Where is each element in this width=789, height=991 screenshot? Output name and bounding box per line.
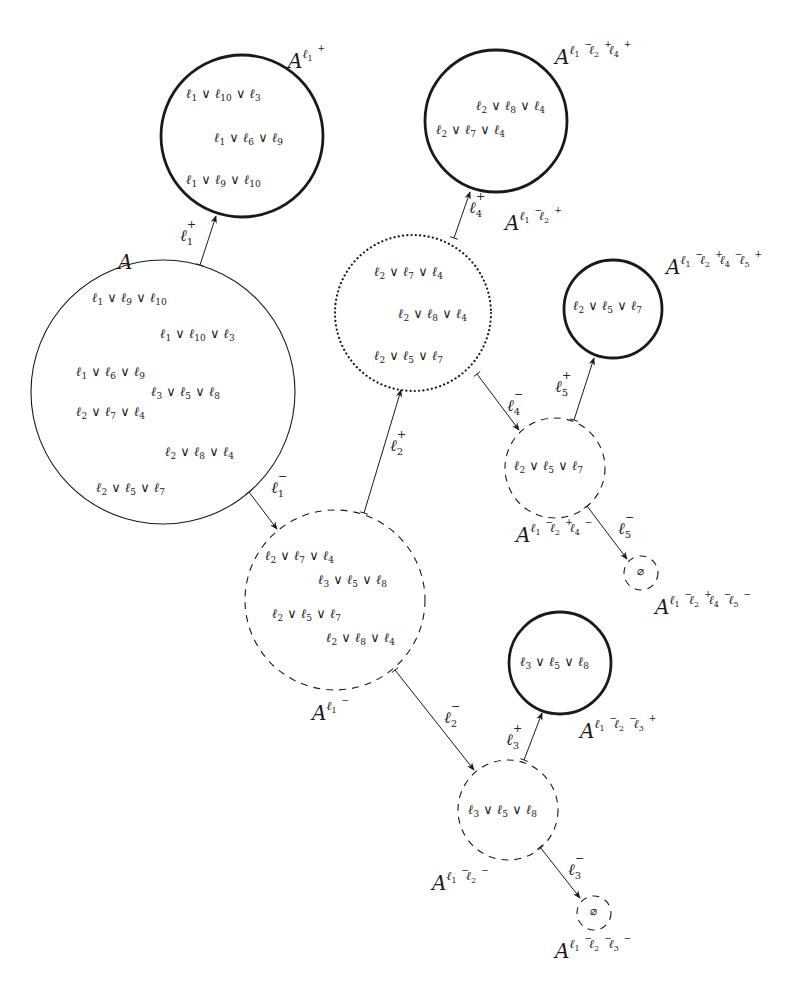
edge-label: ℓ1− [271,480,284,499]
node-label-superscript: ℓ1−ℓ2−ℓ3+ [594,717,653,731]
clause: ℓ1 ∨ ℓ10 ∨ ℓ3 [186,87,261,103]
node-label-base: A [288,49,302,73]
node-label-A_l1m_l2p: Aℓ1−ℓ2+ [505,210,559,233]
clause: ℓ2 ∨ ℓ8 ∨ ℓ4 [326,631,395,647]
edge-arrow-A_l1m-to-A_l1m_l2m [395,670,474,770]
node-label-base: A [118,250,132,274]
clause: ℓ2 ∨ ℓ7 ∨ ℓ4 [436,123,505,139]
literal-assignment: ℓ1+ [302,48,320,63]
node-label-superscript: ℓ1−ℓ2+ [519,209,558,223]
clause: ℓ1 ∨ ℓ9 ∨ ℓ10 [186,173,261,189]
edge-arrow-A_l1m_l2p-to-A_l1m_l2p_l4p [454,192,470,238]
literal-assignment: ℓ2− [466,870,484,885]
clause: ℓ1 ∨ ℓ10 ∨ ℓ3 [160,327,235,343]
node-label-superscript: ℓ1−ℓ2− [446,869,485,883]
edge-label: ℓ5− [618,521,631,540]
node-circle-A_l1m [245,510,425,690]
literal-assignment: ℓ2+ [539,210,557,225]
node-label-base: A [432,871,446,895]
node-label-superscript: ℓ1+ [302,47,322,61]
node-label-superscript: ℓ1−ℓ2+ℓ4+ [569,43,628,57]
node-label-A_l1m_l2p_l4m: Aℓ1−ℓ2+ℓ4− [516,522,589,545]
clause: ℓ2 ∨ ℓ7 ∨ ℓ4 [76,405,145,421]
edge-label: ℓ4+ [469,200,482,219]
node-label-A_l1m_l2m_l3m: Aℓ1−ℓ2−ℓ3− [555,938,628,961]
node-label-base: A [555,45,569,69]
edges-layer [196,192,627,898]
node-label-base: A [580,719,594,743]
empty-set-symbol: ∅ [590,906,597,918]
clause: ℓ2 ∨ ℓ8 ∨ ℓ4 [398,307,467,323]
literal-assignment: ℓ1− [530,522,548,537]
literal-assignment: ℓ4− [720,254,738,269]
edge-label: ℓ2+ [390,438,403,457]
edge-label: ℓ3+ [506,732,519,751]
node-label-A_l1m_l2p_l4m_l5m: Aℓ1−ℓ2+ℓ4−ℓ5− [655,594,748,617]
literal-assignment: ℓ4− [709,594,727,609]
literal-assignment: ℓ5− [728,594,746,609]
node-label-A: A [118,252,132,272]
edge-arrow-A-to-A_l1p [200,216,216,265]
literal-assignment: ℓ1− [326,700,344,715]
literal-assignment: ℓ3− [609,938,627,953]
node-label-base: A [666,255,680,279]
node-label-superscript: ℓ1−ℓ2+ℓ4− [530,521,589,535]
literal-assignment: ℓ2+ [700,254,718,269]
edge-label: ℓ5+ [555,379,568,398]
node-label-A_l1m_l2m: Aℓ1−ℓ2− [432,870,486,893]
clause: ℓ2 ∨ ℓ7 ∨ ℓ4 [374,265,443,281]
node-label-A_l1p: Aℓ1+ [288,48,322,71]
literal-assignment: ℓ2+ [550,522,568,537]
node-label-base: A [655,595,669,619]
edge-arrow-A_l1m_l2p_l4m-to-A_l1m_l2p_l4m_l5p [574,358,594,420]
literal-assignment: ℓ4− [570,522,588,537]
clause: ℓ3 ∨ ℓ5 ∨ ℓ8 [520,655,589,671]
node-label-A_l1m: Aℓ1− [312,700,346,723]
literal-assignment: ℓ4+ [609,44,627,59]
clause: ℓ1 ∨ ℓ9 ∨ ℓ10 [92,291,167,307]
edge-label: ℓ4− [507,398,520,417]
clause: ℓ2 ∨ ℓ5 ∨ ℓ7 [272,607,341,623]
literal-assignment: ℓ2− [614,718,632,733]
node-label-superscript: ℓ1−ℓ2+ℓ4−ℓ5− [669,593,748,607]
clause: ℓ2 ∨ ℓ5 ∨ ℓ7 [374,349,443,365]
literal-assignment: ℓ1− [569,44,587,59]
literal-assignment: ℓ1− [669,594,687,609]
literal-assignment: ℓ2− [589,938,607,953]
empty-set-symbol: ∅ [637,566,644,578]
node-label-superscript: ℓ1−ℓ2−ℓ3− [569,937,628,951]
clause: ℓ1 ∨ ℓ6 ∨ ℓ9 [214,131,283,147]
node-circle-A_l1m_l2p_l4p [425,50,567,192]
clause: ℓ3 ∨ ℓ5 ∨ ℓ8 [151,385,220,401]
literal-assignment: ℓ2+ [589,44,607,59]
node-label-superscript: ℓ1− [326,699,346,713]
literal-assignment: ℓ1− [446,870,464,885]
node-label-A_l1m_l2p_l4p: Aℓ1−ℓ2+ℓ4+ [555,44,628,67]
clause: ℓ1 ∨ ℓ6 ∨ ℓ9 [76,365,145,381]
literal-assignment: ℓ1− [594,718,612,733]
node-label-A_l1m_l2p_l4m_l5p: Aℓ1−ℓ2+ℓ4−ℓ5+ [666,254,759,277]
node-label-A_l1m_l2m_l3p: Aℓ1−ℓ2−ℓ3+ [580,718,653,741]
node-label-base: A [516,523,530,547]
literal-assignment: ℓ1− [569,938,587,953]
literal-assignment: ℓ5+ [739,254,757,269]
node-label-base: A [555,939,569,963]
node-label-base: A [505,211,519,235]
literal-assignment: ℓ1− [519,210,537,225]
edge-label: ℓ2− [444,710,457,729]
clause: ℓ2 ∨ ℓ5 ∨ ℓ7 [514,459,583,475]
edge-label: ℓ1+ [180,228,193,247]
literal-assignment: ℓ3+ [634,718,652,733]
literal-assignment: ℓ1− [680,254,698,269]
edge-label: ℓ3− [568,862,581,881]
edge-arrow-A_l1m_l2m-to-A_l1m_l2m_l3p [524,713,542,760]
clause: ℓ2 ∨ ℓ5 ∨ ℓ7 [96,481,165,497]
clause: ℓ3 ∨ ℓ5 ∨ ℓ8 [318,573,387,589]
node-label-base: A [312,701,326,725]
literal-assignment: ℓ2+ [689,594,707,609]
clause: ℓ2 ∨ ℓ7 ∨ ℓ4 [265,549,334,565]
clause: ℓ2 ∨ ℓ8 ∨ ℓ4 [165,445,234,461]
clause: ℓ2 ∨ ℓ5 ∨ ℓ7 [573,299,642,315]
clause: ℓ2 ∨ ℓ8 ∨ ℓ4 [476,99,545,115]
clause: ℓ3 ∨ ℓ5 ∨ ℓ8 [468,803,537,819]
